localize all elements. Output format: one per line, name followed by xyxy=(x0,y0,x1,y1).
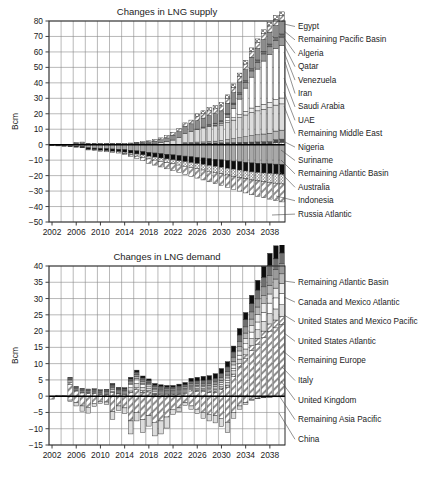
bar-segment xyxy=(189,391,194,396)
bar-segment xyxy=(280,98,285,104)
bar-segment xyxy=(255,39,260,43)
bar-segment xyxy=(268,303,273,313)
bar-segment xyxy=(171,135,176,140)
bar-segment xyxy=(140,384,145,387)
bar-segment xyxy=(140,420,145,433)
bar-segment xyxy=(104,402,109,405)
bar-segment xyxy=(249,51,254,57)
bar-segment xyxy=(225,118,230,121)
y-tick-label: 10 xyxy=(34,359,44,369)
bar-segment xyxy=(98,150,103,151)
bar-segment xyxy=(165,385,170,387)
bar-segment xyxy=(280,283,285,293)
y-axis-label: Bcm xyxy=(10,113,20,130)
bar-segment xyxy=(128,155,133,157)
bar-segment xyxy=(147,379,152,381)
bar-segment xyxy=(274,131,279,140)
bar-segment xyxy=(280,305,285,317)
bar-segment xyxy=(249,77,254,108)
y-axis-label: Bcm xyxy=(10,347,20,364)
bar-segment xyxy=(237,162,242,170)
bar-segment xyxy=(147,386,152,388)
bar-segment xyxy=(249,326,254,333)
x-tick-label: 2014 xyxy=(115,450,134,460)
bar-segment xyxy=(237,73,242,76)
bar-segment xyxy=(213,389,218,391)
bar-segment xyxy=(213,109,218,114)
bar-segment xyxy=(219,373,224,377)
bar-segment xyxy=(189,383,194,385)
bar-segment xyxy=(274,164,279,174)
bar-segment xyxy=(231,145,236,161)
bar-segment xyxy=(201,164,206,170)
bar-segment xyxy=(280,34,285,37)
bar-segment xyxy=(237,351,242,355)
x-tick-label: 2026 xyxy=(188,227,207,237)
bar-segment xyxy=(249,145,254,163)
bar-segment xyxy=(231,352,236,357)
bar-segment xyxy=(262,312,267,321)
bar-segment xyxy=(249,319,254,326)
bar-segment xyxy=(262,338,267,397)
bar-segment xyxy=(134,390,139,397)
bar-segment xyxy=(225,140,230,143)
bar-segment xyxy=(262,134,267,142)
bar-segment xyxy=(219,386,224,388)
legend-label: Saudi Arabia xyxy=(298,102,345,111)
legend-label: Nigeria xyxy=(298,143,324,152)
bar-segment xyxy=(219,167,224,173)
bar-segment xyxy=(255,314,260,321)
bar-segment xyxy=(195,130,200,142)
bar-segment xyxy=(195,121,200,129)
bar-segment xyxy=(268,22,273,26)
bar-segment xyxy=(280,245,285,253)
x-tick-label: 2030 xyxy=(212,450,231,460)
bars-group xyxy=(50,245,285,436)
bar-segment xyxy=(128,421,133,434)
bar-segment xyxy=(213,382,218,385)
bar-segment xyxy=(201,385,206,387)
bar-segment xyxy=(219,106,224,111)
bar-segment xyxy=(255,398,260,399)
bar-segment xyxy=(62,146,67,147)
bar-segment xyxy=(110,383,115,384)
bar-segment xyxy=(134,372,139,374)
bar-segment xyxy=(237,77,242,82)
bar-segment xyxy=(249,172,254,180)
bar-segment xyxy=(280,12,285,16)
bar-segment xyxy=(177,386,182,388)
bar-segment xyxy=(237,138,242,143)
bar-segment xyxy=(189,406,194,409)
y-tick-label: −50 xyxy=(29,217,44,227)
bar-segment xyxy=(237,346,242,351)
bar-segment xyxy=(159,140,164,143)
bar-segment xyxy=(98,390,103,391)
legend-leader-line xyxy=(284,281,295,283)
legend-leader-line xyxy=(284,315,295,322)
x-tick-label: 2006 xyxy=(67,450,86,460)
bar-segment xyxy=(189,378,194,381)
y-tick-label: 5 xyxy=(38,375,43,385)
legend-label: Venezuela xyxy=(298,76,337,85)
bar-segment xyxy=(165,159,170,163)
bar-segment xyxy=(225,387,230,396)
bar-segment xyxy=(274,105,279,131)
y-tick-label: 60 xyxy=(34,47,44,57)
bar-segment xyxy=(207,385,212,387)
bar-segment xyxy=(207,171,212,182)
bar-segment xyxy=(183,396,188,403)
bar-segment xyxy=(243,88,248,111)
bar-segment xyxy=(140,378,145,380)
bar-segment xyxy=(140,151,145,154)
bar-segment xyxy=(177,161,182,165)
bar-segment xyxy=(147,416,152,426)
bar-segment xyxy=(213,126,218,141)
bar-segment xyxy=(165,138,170,142)
bar-segment xyxy=(268,32,273,44)
bar-segment xyxy=(153,385,158,387)
bar-segment xyxy=(213,396,218,416)
bar-segment xyxy=(122,408,127,414)
bar-segment xyxy=(171,132,176,135)
bar-segment xyxy=(262,145,267,164)
bar-segment xyxy=(195,377,200,381)
